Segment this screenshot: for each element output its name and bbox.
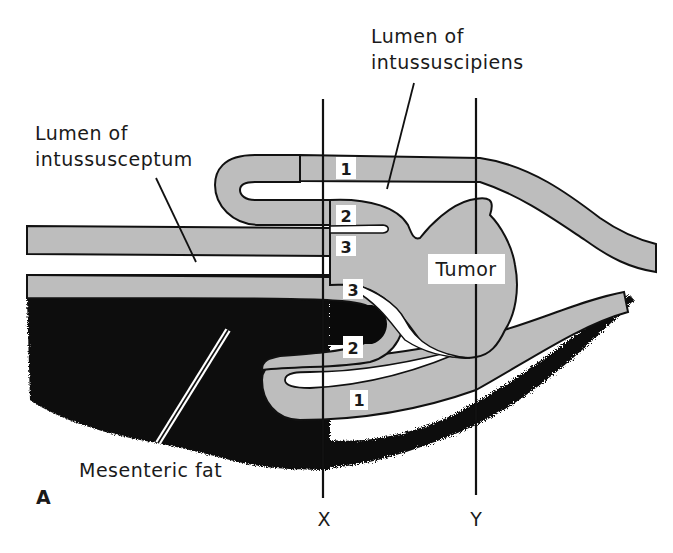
layer-num-top-1: 1 xyxy=(340,160,351,179)
layer-num-bottom-3: 3 xyxy=(347,281,358,300)
label-tumor: Tumor xyxy=(434,258,496,280)
layer-num-bottom-2: 2 xyxy=(347,339,358,358)
label-lumen-intussusceptum-1: Lumen of xyxy=(35,122,129,144)
layer-num-top-3: 3 xyxy=(340,238,351,257)
label-mesenteric-fat: Mesenteric fat xyxy=(79,459,222,481)
label-lumen-intussuscipiens-2: intussuscipiens xyxy=(371,51,524,73)
layer-num-bottom-1: 1 xyxy=(353,391,364,410)
section-label-y: Y xyxy=(469,508,482,530)
intussusception-diagram: 1 2 3 3 2 1 Tumor Lumen of intussusceptu… xyxy=(0,0,673,553)
label-lumen-intussuscipiens-1: Lumen of xyxy=(371,25,465,47)
intussusceptum-tube xyxy=(27,226,330,277)
panel-label: A xyxy=(36,486,51,508)
label-lumen-intussusceptum-2: intussusceptum xyxy=(35,148,193,170)
layer-num-top-2: 2 xyxy=(340,207,351,226)
section-label-x: X xyxy=(317,508,330,530)
